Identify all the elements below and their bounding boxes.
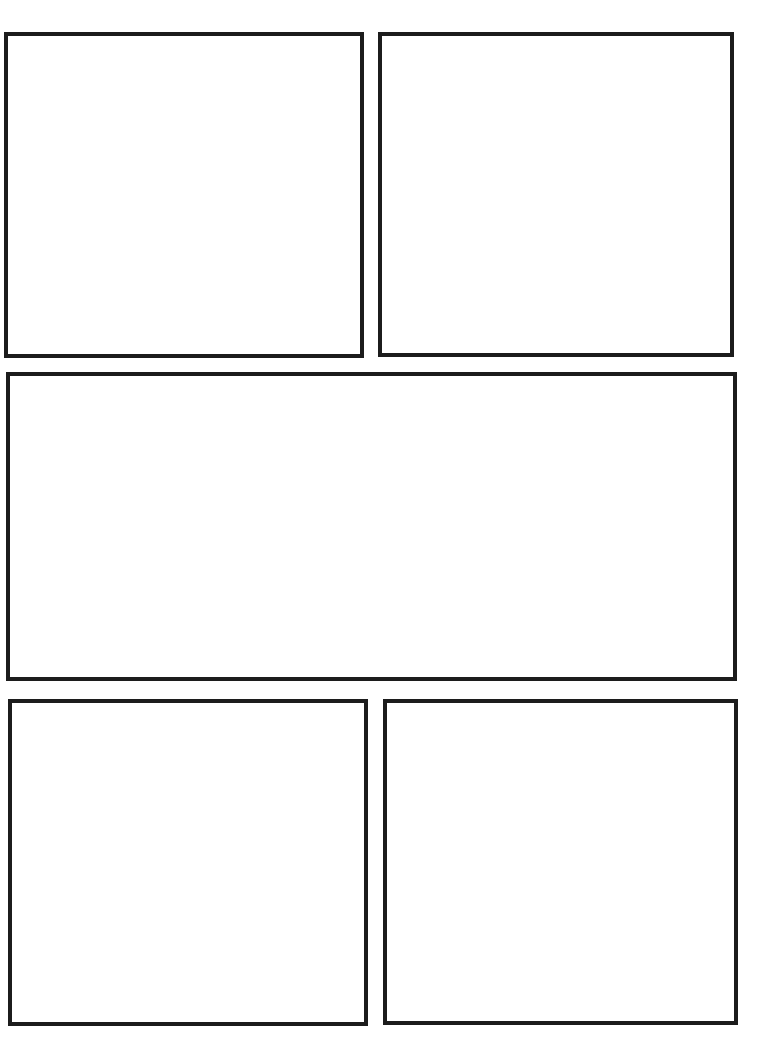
comic-page bbox=[0, 0, 762, 1059]
panel-bottom-left bbox=[8, 699, 368, 1026]
panel-bottom-right bbox=[383, 699, 738, 1025]
panel-middle-wide bbox=[6, 372, 737, 681]
panel-top-left bbox=[4, 32, 364, 358]
panel-top-right bbox=[378, 32, 734, 357]
